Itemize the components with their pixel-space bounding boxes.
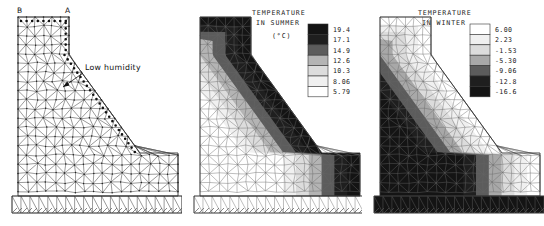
legend-value-label: -12.8: [495, 78, 517, 86]
legend-swatch: [308, 86, 328, 96]
legend-value-label: -5.30: [495, 57, 517, 65]
legend-value-label: -9.06: [495, 67, 517, 75]
mesh-nodes: [17, 16, 179, 193]
legend-value-label: -1.53: [495, 47, 517, 55]
legend-value-label: 17.1: [333, 36, 350, 44]
legend-swatch: [308, 24, 328, 34]
legend-swatch: [470, 86, 490, 96]
panel-temperature-winter: TEMPERATURE IN WINTER 6.002.23-1.53-5.30…: [366, 0, 544, 226]
legend-swatch: [470, 24, 490, 34]
winter-title-row2: IN WINTER: [422, 19, 466, 27]
figure-root: B A Low humidity TEMPERATURE IN SUMMER T…: [0, 0, 544, 226]
panel-temperature-summer: TEMPERATURE IN SUMMER TEMPERATURE IN SUM…: [190, 0, 362, 226]
mesh-lines: [12, 196, 182, 213]
legend-swatch: [308, 55, 328, 65]
legend-swatch: [308, 34, 328, 44]
legend-swatch: [308, 76, 328, 86]
low-humidity-arrow: [63, 73, 83, 87]
mesh-lines: [18, 17, 178, 193]
dam-outline-path: [18, 17, 178, 196]
dam-mesh: [18, 17, 178, 193]
legend-winter: 6.002.23-1.53-5.30-9.06-12.8-16.6: [470, 24, 517, 97]
legend-value-label: 6.00: [495, 26, 512, 34]
legend-value-label: 8.06: [333, 78, 350, 86]
legend-value-label: 19.4: [333, 26, 350, 34]
low-humidity-label: Low humidity: [85, 63, 141, 72]
low-humidity-boundary-dots: [20, 20, 136, 154]
legend-value-label: 12.6: [333, 57, 350, 65]
legend-value-label: 2.23: [495, 36, 512, 44]
legend-swatch: [470, 34, 490, 44]
legend-swatch: [308, 45, 328, 55]
summer-title-row2: IN SUMMER: [256, 19, 300, 27]
crest-label-b: B: [17, 6, 22, 15]
crest-label-a: A: [65, 6, 71, 15]
legend-summer: 19.417.114.912.610.38.065.79: [308, 24, 350, 97]
legend-swatch: [470, 76, 490, 86]
legend-swatch: [470, 45, 490, 55]
mesh-node-dots: [17, 16, 179, 193]
legend-value-label: 14.9: [333, 47, 350, 55]
legend-value-label: 5.79: [333, 88, 350, 96]
legend-swatch: [470, 66, 490, 76]
legend-swatch: [470, 55, 490, 65]
winter-title-row1: TEMPERATURE: [418, 9, 472, 17]
legend-value-label: -16.6: [495, 88, 517, 96]
legend-swatch: [308, 66, 328, 76]
foundation-mesh: [12, 196, 182, 213]
panel-finite-element-mesh: B A Low humidity: [0, 0, 182, 226]
summer-title-row1: TEMPERATURE: [252, 9, 306, 17]
legend-value-label: 10.3: [333, 67, 350, 75]
summer-units: (°C): [272, 32, 291, 40]
